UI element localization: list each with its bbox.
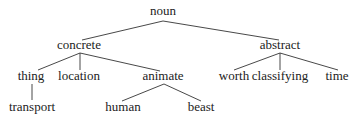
node-abstract: abstract [260, 37, 301, 52]
node-beast: beast [188, 99, 215, 114]
node-time: time [325, 68, 348, 83]
node-worth: worth [219, 68, 250, 83]
node-concrete: concrete [57, 37, 101, 52]
node-animate: animate [142, 68, 183, 83]
taxonomy-tree: noun concrete abstract thing location an… [0, 0, 363, 121]
node-human: human [105, 99, 141, 114]
node-thing: thing [18, 68, 45, 83]
node-transport: transport [9, 99, 56, 114]
node-classifying: classifying [252, 68, 309, 83]
node-location: location [58, 68, 100, 83]
node-noun: noun [150, 3, 177, 18]
tree-edges [32, 21, 338, 101]
